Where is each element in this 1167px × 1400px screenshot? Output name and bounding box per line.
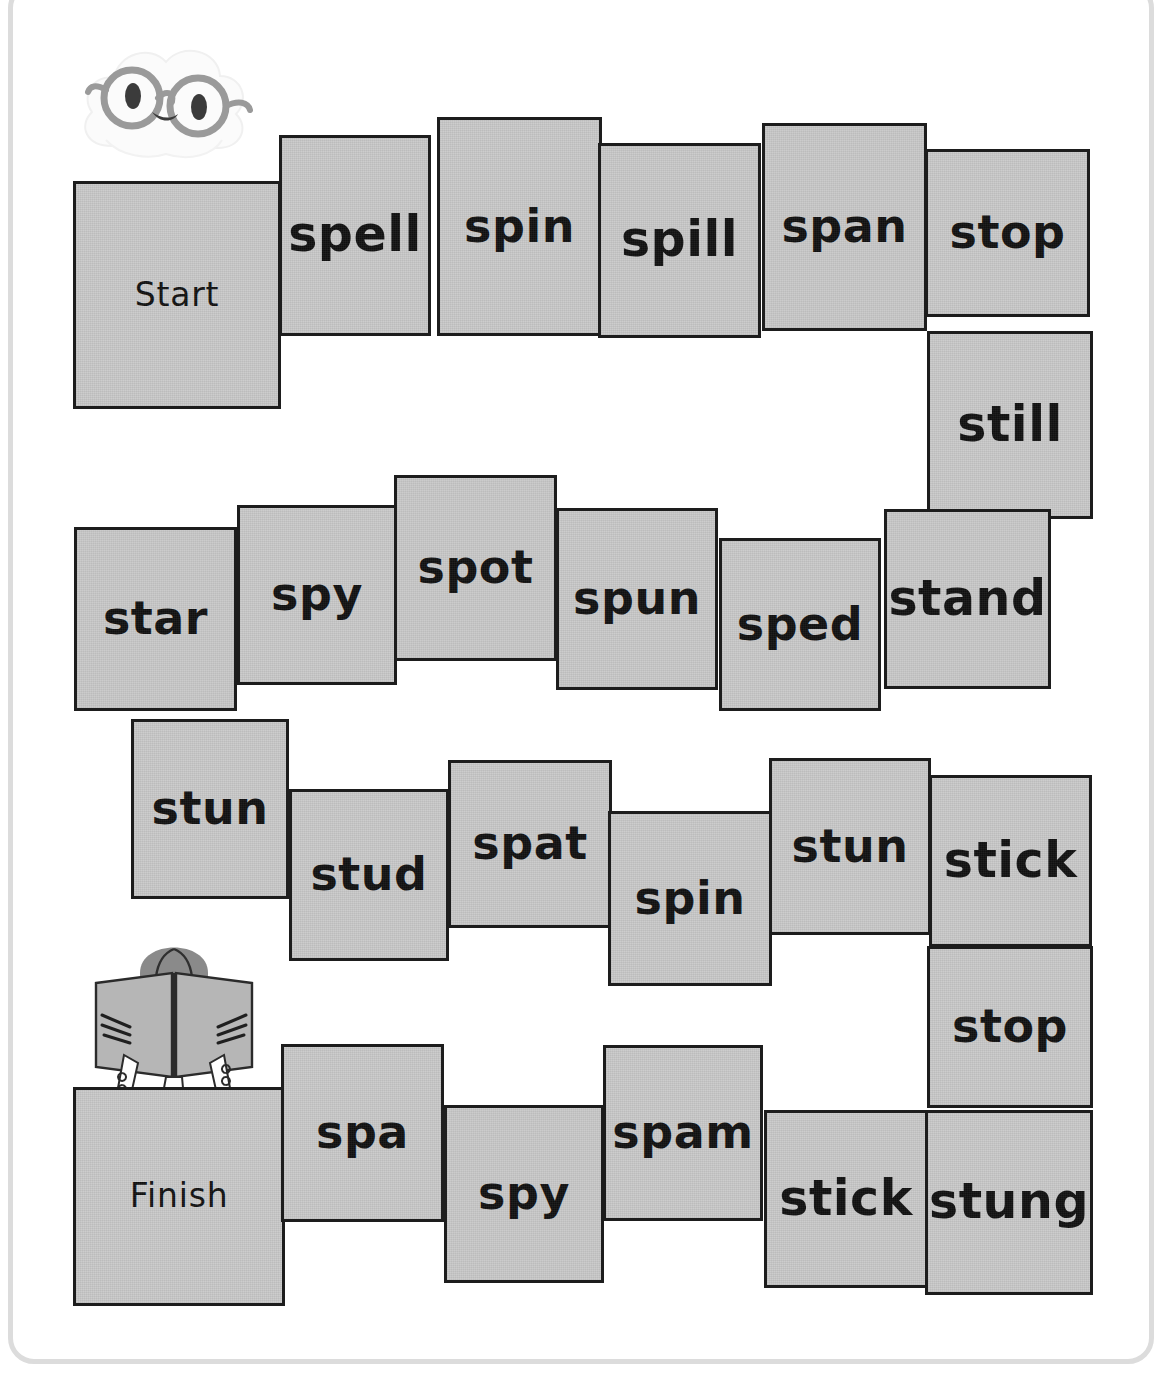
word-tile[interactable]: stop bbox=[927, 946, 1093, 1108]
word-tile[interactable]: spill bbox=[598, 143, 761, 338]
word-tile[interactable]: spy bbox=[237, 505, 397, 685]
tile-label: spot bbox=[418, 544, 534, 590]
tile-label: spy bbox=[271, 571, 363, 617]
word-tile[interactable]: stung bbox=[925, 1110, 1093, 1295]
tile-label: stop bbox=[950, 209, 1066, 255]
word-tile[interactable]: spin bbox=[608, 811, 772, 986]
word-tile[interactable]: stick bbox=[764, 1110, 928, 1288]
tile-label: stun bbox=[152, 785, 269, 831]
word-tile[interactable]: spa bbox=[281, 1044, 444, 1222]
word-tile[interactable]: spot bbox=[394, 475, 557, 661]
tile-label: spill bbox=[621, 215, 738, 264]
word-tile[interactable]: spell bbox=[279, 135, 431, 336]
tile-label: spin bbox=[464, 203, 575, 249]
tile-label: spam bbox=[612, 1109, 753, 1155]
cloud-with-glasses-icon bbox=[70, 28, 260, 203]
word-tile[interactable]: spun bbox=[556, 508, 718, 690]
tile-label: stop bbox=[952, 1003, 1068, 1049]
tile-label: stick bbox=[779, 1174, 913, 1223]
tile-label: stung bbox=[929, 1177, 1089, 1226]
board-tile-finish[interactable]: Finish bbox=[73, 1087, 285, 1306]
board-tile-start[interactable]: Start bbox=[73, 181, 281, 409]
word-tile[interactable]: stick bbox=[929, 775, 1092, 947]
word-tile[interactable]: spam bbox=[603, 1045, 763, 1221]
tile-label: Start bbox=[135, 278, 220, 311]
word-tile[interactable]: stud bbox=[289, 789, 449, 961]
word-tile[interactable]: stand bbox=[884, 509, 1051, 689]
tile-label: sped bbox=[737, 601, 863, 647]
tile-label: Finish bbox=[130, 1179, 229, 1212]
tile-label: still bbox=[957, 400, 1062, 449]
tile-label: stand bbox=[888, 574, 1046, 623]
word-tile[interactable]: stun bbox=[131, 719, 289, 899]
person-reading-book-icon bbox=[72, 915, 277, 1100]
word-tile[interactable]: sped bbox=[719, 538, 881, 711]
tile-label: stick bbox=[944, 836, 1078, 885]
tile-label: stud bbox=[310, 851, 427, 897]
tile-label: stun bbox=[792, 823, 909, 869]
tile-label: spell bbox=[288, 210, 422, 259]
word-tile[interactable]: still bbox=[927, 331, 1093, 519]
word-tile[interactable]: spin bbox=[437, 117, 602, 336]
tile-label: spun bbox=[573, 575, 701, 621]
word-tile[interactable]: span bbox=[762, 123, 927, 331]
word-tile[interactable]: spat bbox=[448, 760, 612, 928]
tile-label: spy bbox=[478, 1170, 570, 1216]
tile-label: star bbox=[103, 595, 208, 641]
tile-label: spat bbox=[472, 820, 587, 866]
word-tile[interactable]: spy bbox=[444, 1105, 604, 1283]
tile-label: span bbox=[781, 203, 907, 249]
tile-label: spin bbox=[635, 875, 746, 921]
word-tile[interactable]: stun bbox=[769, 758, 931, 935]
tile-label: spa bbox=[316, 1109, 409, 1155]
worksheet-page: Startspellspinspillspanstopstillstarspys… bbox=[0, 0, 1167, 1400]
word-tile[interactable]: star bbox=[74, 527, 237, 711]
word-tile[interactable]: stop bbox=[925, 149, 1090, 317]
